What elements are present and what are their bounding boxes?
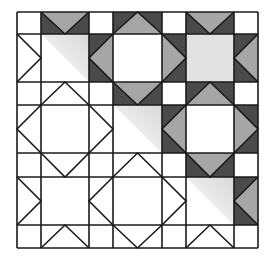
goose-triangle-outline: [17, 105, 41, 153]
center-square-half-shaded: [113, 105, 162, 153]
goose-triangle-outline: [162, 177, 186, 225]
center-square-half-shaded: [41, 34, 89, 82]
goose-triangle-outline: [17, 34, 41, 82]
goose-triangle-outline: [41, 82, 89, 105]
goose-triangle-outline: [17, 177, 41, 225]
goose-triangle-outline: [41, 153, 89, 177]
goose-triangle-outline: [89, 177, 113, 225]
goose-triangle-outline: [41, 225, 89, 248]
quilt-fills: [41, 12, 258, 225]
goose-triangle-outline: [113, 225, 162, 248]
center-square-shaded: [186, 34, 234, 82]
center-square-half-shaded: [186, 177, 234, 225]
goose-triangle-outline: [89, 105, 113, 153]
goose-triangle-outline: [186, 225, 234, 248]
goose-triangle-outline: [113, 153, 162, 177]
quilt-diagram: Quilt block pattern (flying geese star g…: [0, 0, 271, 257]
